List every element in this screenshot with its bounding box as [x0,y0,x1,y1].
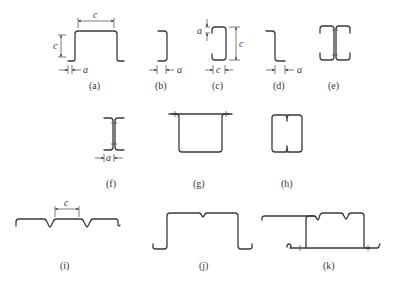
dim-a: a [83,64,88,75]
dim-c-top: c [93,9,98,20]
panel-c-lipped-channel: a c c (c) [197,19,244,92]
panel-f-built-up-channels: a (f) [95,118,124,190]
panel-g-box-with-plate: (g) [169,111,232,190]
dim-c: c [64,197,69,208]
dim-c-right: c [239,38,244,49]
panel-label-c: (c) [212,80,223,92]
panel-label-b: (b) [155,80,167,92]
dim-a: a [297,64,302,75]
dim-c-bottom: c [216,64,221,75]
panel-k-overlapped-section: (k) [262,213,380,272]
panel-label-h: (h) [281,178,293,190]
panel-i-corrugated-deck: c (i) [16,197,120,272]
panel-label-g: (g) [193,178,205,190]
dim-a: a [106,152,111,163]
panel-label-e: (e) [328,80,339,92]
panel-label-i: (i) [60,260,69,272]
panel-label-k: (k) [323,260,335,272]
panel-e-built-up-i: (e) [320,26,350,92]
cold-formed-sections-diagram: c c a (a) a (b) a c c (c [0,0,396,282]
panel-j-stiffened-hat: (j) [153,213,252,272]
panel-b-channel: a (b) [149,31,182,92]
panel-d-z-section: a (d) [266,31,302,92]
panel-label-d: (d) [273,80,285,92]
dim-a: a [197,25,202,36]
panel-label-a: (a) [89,80,100,92]
panel-label-j: (j) [199,260,208,272]
dim-a: a [177,64,182,75]
panel-a-hat-section: c c a (a) [53,9,124,92]
panel-label-f: (f) [106,178,116,190]
dim-c-left: c [53,40,58,51]
panel-h-closed-box: (h) [272,115,302,190]
